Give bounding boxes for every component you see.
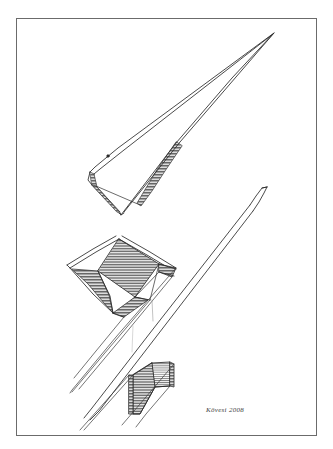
ink-drawing: Kövesi 2008 — [0, 0, 333, 449]
ink-dot-marker — [107, 155, 109, 157]
artist-signature: Kövesi 2008 — [205, 406, 244, 414]
artwork-canvas: Kövesi 2008 — [0, 0, 333, 449]
block-left-edge — [129, 375, 133, 414]
block-right-edge — [170, 362, 174, 387]
signature-text: Kövesi 2008 — [205, 406, 244, 414]
